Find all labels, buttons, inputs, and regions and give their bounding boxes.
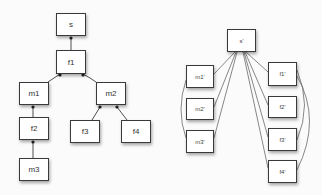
node-s-prime: s' — [227, 29, 256, 52]
node-label: f4' — [279, 169, 285, 175]
node-label: m1 — [28, 89, 39, 98]
node-label: s — [69, 20, 73, 29]
node-f2-prime: f2' — [268, 96, 297, 118]
node-label: m2 — [105, 89, 116, 98]
edge-f1-m2 — [83, 74, 96, 82]
edge-f1-f3-curve — [297, 70, 305, 140]
edge-m2-f4 — [117, 107, 127, 120]
node-m2: m2 — [96, 82, 126, 105]
node-f3: f3 — [70, 120, 100, 143]
node-s: s — [56, 13, 86, 36]
node-f4: f4 — [121, 120, 151, 143]
node-f1: f1 — [56, 50, 86, 74]
port-m2-bottom-right — [115, 105, 118, 108]
port-m2-bottom-left — [98, 105, 101, 108]
node-m1: m1 — [19, 82, 49, 105]
node-m3: m3 — [19, 158, 49, 181]
port-s-bottom — [69, 36, 72, 39]
diagram-canvas: s f1 m1 m2 f2 f3 f4 m3 s' m1' m2' m3' f1… — [0, 0, 322, 195]
edge-f1-m1 — [48, 74, 60, 82]
node-label: f3' — [279, 137, 285, 143]
node-m3-prime: m3' — [186, 130, 214, 153]
node-f2: f2 — [19, 117, 49, 140]
port-m1-bottom — [31, 105, 34, 108]
node-label: m2' — [195, 106, 204, 112]
node-label: f1 — [68, 58, 75, 67]
node-label: f3 — [82, 127, 89, 136]
node-label: m1' — [195, 74, 204, 80]
edge-m2-f3 — [92, 107, 100, 120]
node-m1-prime: m1' — [186, 65, 214, 88]
node-f3-prime: f3' — [268, 128, 297, 151]
edge-s-f3 — [244, 52, 268, 137]
node-label: m3 — [28, 165, 39, 174]
node-label: f2' — [279, 104, 285, 110]
edge-s-f4 — [243, 52, 268, 168]
node-f1-prime: f1' — [268, 62, 297, 86]
node-label: f4 — [133, 127, 140, 136]
node-label: s' — [239, 38, 243, 44]
node-label: f2 — [31, 124, 38, 133]
port-f2-bottom — [31, 140, 34, 143]
node-label: m3' — [195, 139, 204, 145]
edge-s-m3 — [214, 52, 237, 138]
edge-s-m2 — [214, 52, 236, 107]
node-m2-prime: m2' — [186, 98, 214, 120]
node-f4-prime: f4' — [268, 160, 297, 183]
node-label: f1' — [279, 71, 285, 77]
